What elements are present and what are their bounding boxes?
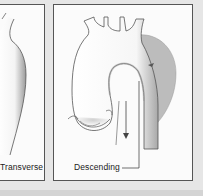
transverse-aorta-illustration bbox=[0, 5, 45, 182]
label-descending: Descending bbox=[74, 162, 120, 172]
bottom-band bbox=[0, 190, 203, 196]
descending-aorta-illustration bbox=[54, 5, 194, 182]
panel-transverse: Transverse bbox=[0, 4, 45, 181]
panel-descending: Descending bbox=[53, 4, 193, 181]
label-transverse: Transverse bbox=[0, 162, 43, 172]
